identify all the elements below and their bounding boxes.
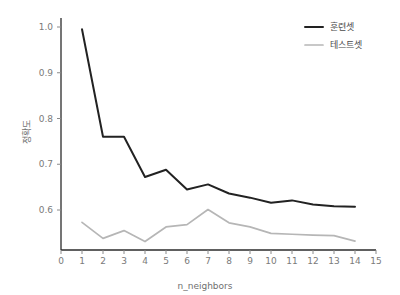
series-line-1 (82, 29, 355, 207)
x-tick-label: 7 (205, 256, 211, 266)
x-tick-label: 8 (226, 256, 232, 266)
y-axis-title: 정확도 (21, 120, 32, 144)
x-tick-label: 5 (163, 256, 169, 266)
x-tick-label: 9 (247, 256, 253, 266)
x-axis-group: 0123456789101112131415 (58, 250, 382, 266)
y-tick-labels: 0.60.70.80.91.0 (39, 22, 54, 215)
chart-legend: 훈련셋테스트셋 (305, 21, 362, 50)
x-tick-label: 4 (142, 256, 148, 266)
x-tick-label: 1 (79, 256, 85, 266)
x-tick-label: 15 (370, 256, 381, 266)
y-axis-group: 0.60.70.80.91.0 (39, 18, 61, 250)
y-tick-label: 0.7 (39, 159, 53, 169)
y-tick-label: 0.9 (39, 68, 54, 78)
line-chart: 0.60.70.80.91.0 0123456789101112131415 n… (0, 0, 400, 295)
x-tick-label: 12 (307, 256, 318, 266)
x-tick-label: 2 (100, 256, 106, 266)
x-tick-labels: 0123456789101112131415 (58, 256, 382, 266)
x-tick-label: 3 (121, 256, 127, 266)
y-tick-label: 1.0 (39, 22, 54, 32)
y-tick-label: 0.6 (39, 205, 54, 215)
x-tick-label: 11 (286, 256, 297, 266)
x-tick-label: 0 (58, 256, 64, 266)
legend-label-1: 훈련셋 (330, 21, 354, 32)
data-series-group (82, 29, 355, 241)
chart-figure: 0.60.70.80.91.0 0123456789101112131415 n… (0, 0, 400, 295)
x-tick-label: 10 (265, 256, 277, 266)
x-tick-label: 6 (184, 256, 190, 266)
x-tick-label: 13 (328, 256, 339, 266)
legend-label-2: 테스트셋 (330, 40, 362, 50)
series-line-2 (82, 210, 355, 242)
y-tick-label: 0.8 (39, 114, 54, 124)
x-axis-title: n_neighbors (178, 281, 233, 291)
x-tick-label: 14 (349, 256, 361, 266)
